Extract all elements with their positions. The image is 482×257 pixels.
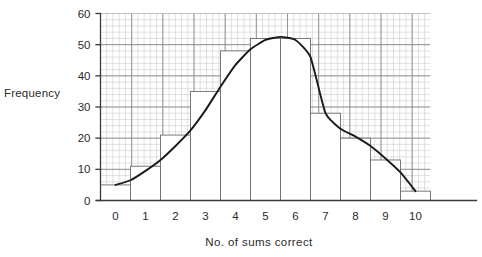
y-tick-label: 20 bbox=[65, 132, 91, 144]
histogram-bar[interactable] bbox=[251, 38, 281, 200]
x-tick-label: 4 bbox=[224, 210, 248, 222]
x-tick-label: 10 bbox=[404, 210, 428, 222]
x-tick-label: 3 bbox=[194, 210, 218, 222]
histogram-bar[interactable] bbox=[371, 160, 401, 201]
histogram-bar[interactable] bbox=[341, 138, 371, 200]
x-tick-label: 6 bbox=[284, 210, 308, 222]
histogram-bar[interactable] bbox=[221, 51, 251, 201]
x-tick-label: 2 bbox=[164, 210, 188, 222]
y-tick-label: 0 bbox=[65, 195, 91, 207]
x-tick-label: 1 bbox=[134, 210, 158, 222]
x-tick-label: 0 bbox=[104, 210, 128, 222]
histogram-bar[interactable] bbox=[191, 91, 221, 200]
x-tick-label: 5 bbox=[254, 210, 278, 222]
y-tick-label: 10 bbox=[65, 163, 91, 175]
histogram-bar[interactable] bbox=[401, 191, 431, 200]
chart-canvas: Frequency No. of sums correct 0102030405… bbox=[0, 0, 482, 257]
y-tick-label: 40 bbox=[65, 70, 91, 82]
x-tick-label: 7 bbox=[314, 210, 338, 222]
x-tick-label: 8 bbox=[344, 210, 368, 222]
histogram-bar[interactable] bbox=[281, 38, 311, 200]
y-tick-label: 60 bbox=[65, 8, 91, 20]
y-tick-label: 50 bbox=[65, 39, 91, 51]
histogram-bar[interactable] bbox=[101, 185, 131, 201]
y-tick-label: 30 bbox=[65, 101, 91, 113]
x-tick-label: 9 bbox=[374, 210, 398, 222]
